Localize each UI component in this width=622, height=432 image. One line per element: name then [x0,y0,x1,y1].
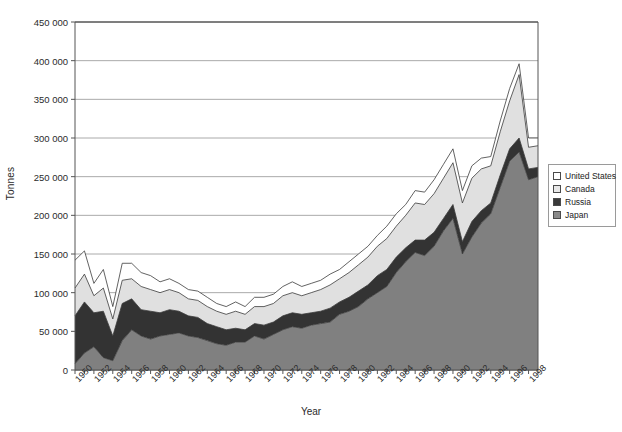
legend-swatch-icon [553,185,561,193]
x-axis-ticks: 1950195219541956195819601962196419661968… [0,0,622,432]
x-tick-label: 1950 [73,363,94,384]
x-tick-label: 1990 [451,363,472,384]
x-axis-title: Year [0,406,622,417]
legend-item: Japan [553,209,611,221]
x-tick-label: 1984 [394,363,415,384]
x-tick-label: 1998 [527,363,548,384]
x-tick-label: 1968 [243,363,264,384]
x-tick-label: 1972 [281,363,302,384]
legend-item-label: Japan [565,210,588,220]
x-tick-label: 1956 [130,363,151,384]
legend-swatch-icon [553,198,561,206]
legend-swatch-icon [553,172,561,180]
x-tick-label: 1954 [111,363,132,384]
legend-item: United States [553,170,611,182]
x-tick-label: 1974 [300,363,321,384]
x-tick-label: 1978 [338,363,359,384]
x-tick-label: 1966 [224,363,245,384]
legend-item-label: Russia [565,197,591,207]
legend-swatch-icon [553,211,561,219]
legend-item-label: United States [565,171,616,181]
x-tick-label: 1980 [356,363,377,384]
x-tick-label: 1962 [186,363,207,384]
x-tick-label: 1992 [470,363,491,384]
x-tick-label: 1958 [149,363,170,384]
x-tick-label: 1982 [375,363,396,384]
x-tick-label: 1988 [432,363,453,384]
stacked-area-chart: Tonnes 050 000100 000150 000200 000250 0… [0,0,622,432]
x-tick-label: 1964 [205,363,226,384]
x-tick-label: 1976 [319,363,340,384]
x-tick-label: 1994 [489,363,510,384]
x-tick-label: 1952 [92,363,113,384]
x-tick-label: 1986 [413,363,434,384]
legend-item: Canada [553,183,611,195]
x-tick-label: 1996 [508,363,529,384]
x-tick-label: 1960 [167,363,188,384]
legend-item-label: Canada [565,184,595,194]
x-tick-label: 1970 [262,363,283,384]
legend-item: Russia [553,196,611,208]
chart-legend: United StatesCanadaRussiaJapan [548,164,616,227]
